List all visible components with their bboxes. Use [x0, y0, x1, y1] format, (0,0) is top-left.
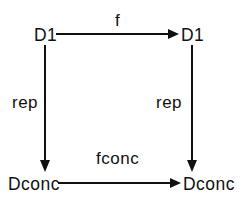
edge-label-rep-left: rep	[12, 94, 38, 111]
node-bottom-left: Dconc	[8, 174, 60, 193]
node-top-left: D1	[34, 25, 57, 44]
edge-rep-left-arrowhead-icon	[40, 160, 50, 172]
node-bottom-right: Dconc	[183, 174, 235, 193]
edge-label-rep-right: rep	[156, 94, 182, 111]
node-top-right: D1	[181, 25, 204, 44]
edge-fconc-arrowhead-icon	[170, 178, 181, 188]
edge-f-arrowhead-icon	[168, 29, 179, 39]
edge-label-f: f	[115, 12, 120, 29]
edge-rep-right-arrowhead-icon	[187, 160, 197, 172]
edge-label-fconc: fconc	[96, 150, 139, 167]
